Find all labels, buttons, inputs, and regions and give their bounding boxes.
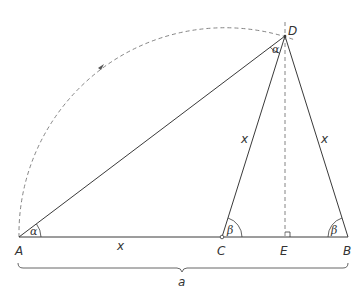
point-label-A: A [14, 244, 23, 258]
diagram-canvas: α α β β x x x A C E B D a [0, 0, 364, 300]
right-angle-mark [285, 232, 290, 237]
arc-arrow-icon [98, 64, 104, 70]
angle-label-C: β [226, 224, 233, 237]
brace-AB [18, 263, 348, 272]
segment-label-DB: x [320, 132, 329, 146]
point-C-marker [220, 235, 224, 239]
geometry-diagram: α α β β x x x A C E B D a [0, 0, 364, 300]
point-D-marker [284, 35, 287, 38]
segment-label-CD: x [240, 132, 249, 146]
angle-label-B: β [330, 224, 337, 237]
point-label-E: E [280, 244, 288, 258]
brace-label-a: a [178, 275, 185, 289]
point-label-B: B [343, 244, 351, 258]
segment-label-AC: x [116, 239, 125, 253]
segment-DB [285, 36, 348, 237]
point-label-C: C [217, 244, 226, 258]
segment-CD [222, 36, 285, 237]
point-label-D: D [288, 24, 297, 38]
angle-label-D: α [272, 43, 280, 56]
angle-label-A: α [30, 225, 38, 238]
